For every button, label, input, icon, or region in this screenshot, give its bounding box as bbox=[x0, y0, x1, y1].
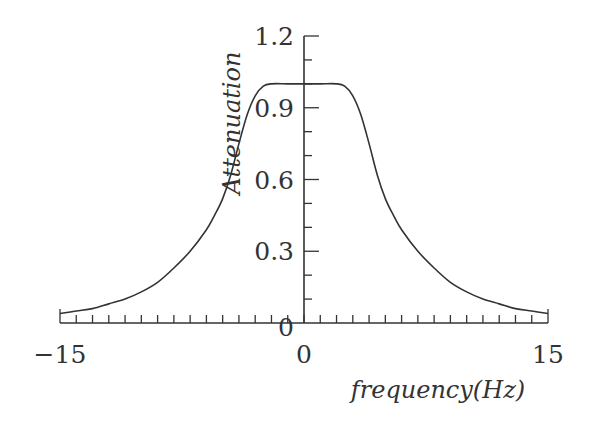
x-tick-label: −15 bbox=[34, 340, 87, 369]
y-tick-label: 0.9 bbox=[254, 94, 294, 123]
x-tick-labels: −15015 bbox=[34, 340, 564, 369]
chart: −15015 00.30.60.91.2 frequency(Hz) Atten… bbox=[0, 0, 591, 434]
y-axis-title: Attenuation bbox=[218, 52, 246, 197]
x-axis-title: frequency(Hz) bbox=[349, 376, 525, 404]
y-tick-label: 1.2 bbox=[254, 22, 294, 51]
y-minor-ticks bbox=[304, 36, 319, 299]
y-tick-label: 0.3 bbox=[254, 237, 294, 266]
y-tick-label: 0.6 bbox=[254, 166, 294, 195]
x-tick-label: 0 bbox=[296, 340, 312, 369]
x-tick-label: 15 bbox=[532, 340, 564, 369]
y-tick-labels: 00.30.60.91.2 bbox=[254, 22, 294, 342]
y-tick-label: 0 bbox=[278, 313, 294, 342]
